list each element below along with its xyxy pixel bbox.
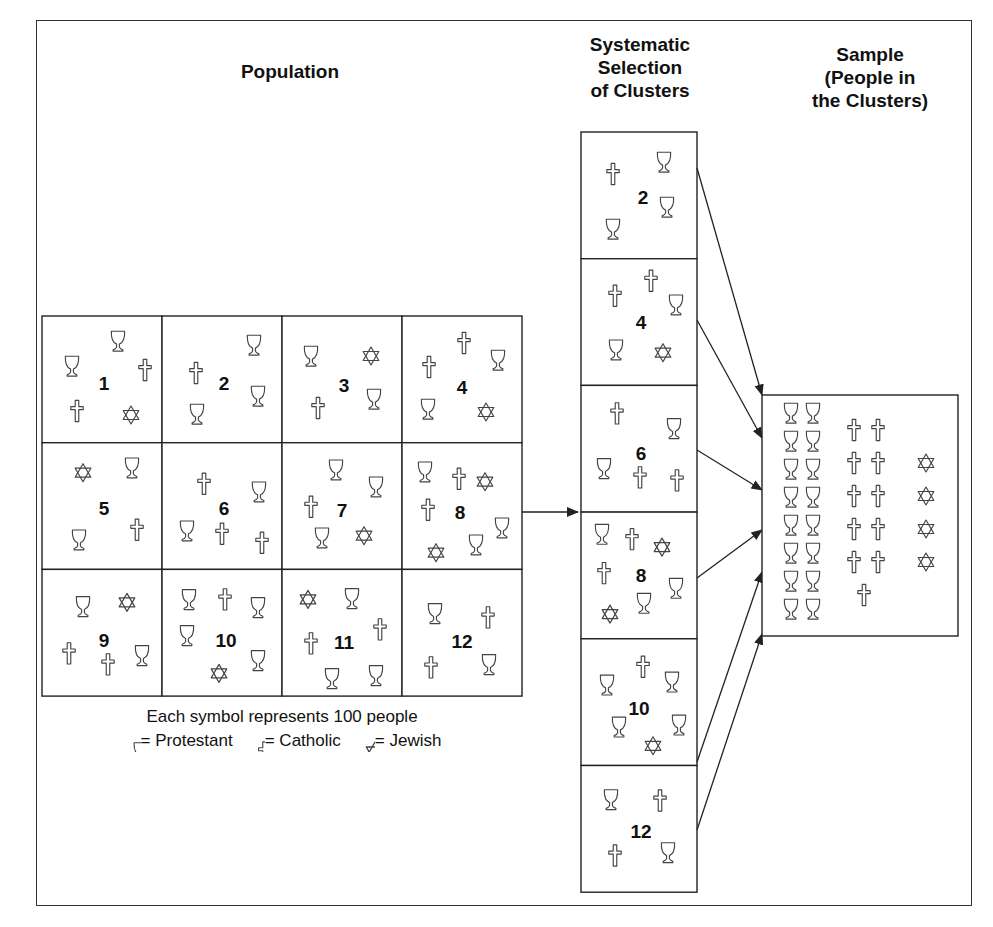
selection-arrow — [697, 168, 762, 395]
population-cluster-10: 10 — [162, 569, 282, 696]
population-cluster-3: 3 — [282, 316, 402, 443]
cluster-number: 9 — [99, 630, 110, 651]
cluster-number: 6 — [219, 498, 230, 519]
population-cluster-8: 8 — [402, 443, 522, 570]
legend-caption: Each symbol represents 100 people — [42, 706, 522, 728]
population-cluster-5: 5 — [42, 443, 162, 570]
cluster-number: 7 — [337, 500, 348, 521]
selected-cluster-8: 8 — [581, 512, 697, 639]
selection-column: 24681012 — [581, 132, 697, 892]
cluster-number: 6 — [636, 443, 647, 464]
cross-icon — [247, 730, 265, 752]
star-of-david-icon — [355, 730, 375, 752]
selection-to-sample-arrows — [697, 168, 762, 830]
population-cluster-9: 9 — [42, 569, 162, 696]
selected-cluster-4: 4 — [581, 259, 697, 386]
selected-cluster-10: 10 — [581, 639, 697, 766]
cluster-number: 10 — [215, 630, 236, 651]
cluster-number: 1 — [99, 373, 110, 394]
sample-box — [762, 395, 958, 636]
cluster-sampling-diagram: 123456789101112 24681012 — [0, 0, 993, 927]
population-cluster-12: 12 — [402, 569, 522, 696]
cluster-number: 8 — [636, 565, 647, 586]
selected-cluster-2: 2 — [581, 132, 697, 259]
cluster-number: 2 — [219, 373, 230, 394]
cluster-number: 2 — [638, 187, 649, 208]
population-cluster-1: 1 — [42, 316, 162, 443]
population-cluster-4: 4 — [402, 316, 522, 443]
legend: Each symbol represents 100 people = Prot… — [42, 706, 522, 752]
legend-item-protestant: = Protestant — [123, 730, 233, 752]
cluster-number: 10 — [628, 698, 649, 719]
legend-item-catholic: = Catholic — [247, 730, 341, 752]
population-cluster-11: 11 — [282, 569, 402, 696]
legend-item-jewish: = Jewish — [355, 730, 442, 752]
legend-key: = Protestant = Catholic = Jewish — [42, 730, 522, 752]
cluster-number: 4 — [457, 377, 468, 398]
chalice-icon — [123, 730, 141, 752]
population-cluster-6: 6 — [162, 443, 282, 570]
cluster-number: 12 — [451, 631, 472, 652]
selected-cluster-12: 12 — [581, 766, 697, 893]
cluster-number: 3 — [339, 375, 350, 396]
population-grid: 123456789101112 — [42, 316, 522, 696]
cluster-number: 4 — [636, 312, 647, 333]
cluster-number: 8 — [455, 502, 466, 523]
cluster-number: 5 — [99, 498, 110, 519]
selected-cluster-6: 6 — [581, 385, 697, 512]
cluster-number: 11 — [334, 632, 355, 653]
selection-arrow — [697, 450, 762, 490]
population-cluster-2: 2 — [162, 316, 282, 443]
population-cluster-7: 7 — [282, 443, 402, 570]
cluster-number: 12 — [630, 821, 651, 842]
selection-arrow — [697, 530, 762, 578]
selection-arrow — [697, 320, 762, 438]
